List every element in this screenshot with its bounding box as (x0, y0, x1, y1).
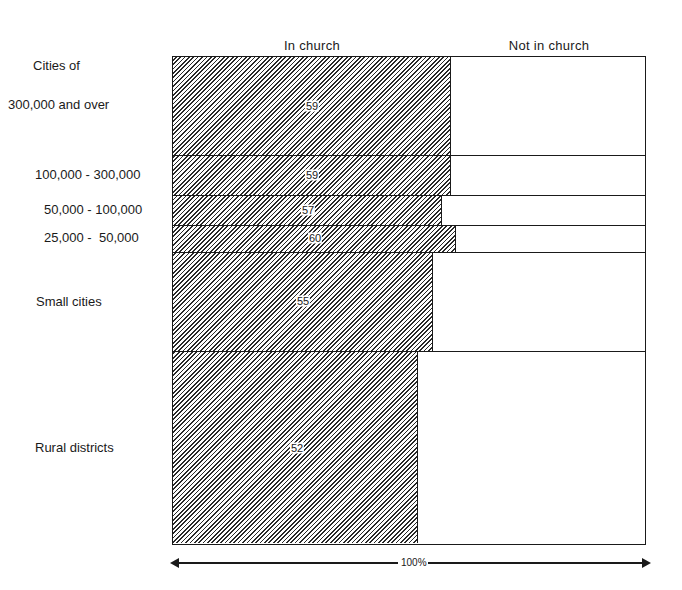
value-label: 52 (290, 443, 304, 454)
axis-total-label: 100% (401, 556, 427, 569)
row-label-25k-50k: 25,000 - 50,000 (44, 230, 139, 245)
row-label-100k-300k: 100,000 - 300,000 (35, 167, 141, 182)
value-label: 57 (301, 205, 315, 216)
row-label-50k-100k: 50,000 - 100,000 (44, 202, 142, 217)
bar-row-25k-50k: 60 (173, 225, 645, 252)
value-label: 55 (296, 296, 310, 307)
arrow-line-left (176, 562, 398, 564)
bar-row-rural-districts: 52 (173, 351, 645, 543)
bar-row-small-cities: 55 (173, 252, 645, 351)
value-label: 59 (305, 170, 319, 181)
value-label: 60 (308, 233, 322, 244)
bar-row-100k-300k: 59 (173, 155, 645, 195)
column-header-not-in-church: Not in church (452, 38, 646, 53)
stacked-bar-chart: 59 59 57 60 55 52 (172, 56, 646, 545)
row-group-label: Cities of (33, 58, 80, 73)
row-label-300k-and-over: 300,000 and over (8, 97, 109, 112)
bar-row-50k-100k: 57 (173, 195, 645, 225)
row-label-small-cities: Small cities (36, 294, 102, 309)
column-header-in-church: In church (172, 38, 452, 53)
total-100-percent-arrow: 100% (170, 556, 651, 570)
bar-row-300k-and-over: 59 (173, 57, 645, 155)
arrow-right-icon (642, 558, 651, 568)
value-label: 59 (305, 101, 319, 112)
row-label-rural-districts: Rural districts (35, 440, 114, 455)
arrow-line-right (428, 562, 645, 564)
